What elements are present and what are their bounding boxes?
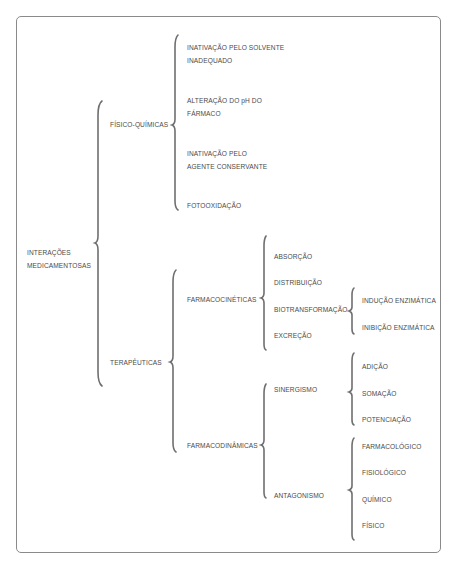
leaf-fotooxidacao: FOTOOXIDAÇÃO bbox=[187, 199, 241, 212]
root-label-line1: INTERAÇÕES bbox=[27, 246, 71, 259]
leaf-potenciacao: POTENCIAÇÃO bbox=[362, 413, 411, 426]
brace-antagonismo bbox=[349, 438, 354, 540]
leaf-distribuicao: DISTRIBUIÇÃO bbox=[274, 276, 322, 289]
brace-lines bbox=[0, 0, 456, 567]
node-farmacodinamicas: FARMACODINÂMICAS bbox=[187, 439, 258, 452]
leaf-excrecao: EXCREÇÃO bbox=[274, 329, 312, 342]
leaf-adicao: ADIÇÃO bbox=[362, 360, 388, 373]
leaf-somacao: SOMAÇÃO bbox=[362, 387, 396, 400]
node-sinergismo: SINERGISMO bbox=[274, 383, 317, 396]
leaf-inibicao-enzimatica: INIBIÇÃO ENZIMÁTICA bbox=[362, 321, 435, 334]
root-label-line2: MEDICAMENTOSAS bbox=[27, 259, 91, 272]
node-farmacocineticas: FARMACOCINÉTICAS bbox=[187, 293, 256, 306]
leaf-inativacao-conservante-line2: AGENTE CONSERVANTE bbox=[187, 160, 267, 173]
brace-fisico-quimicas bbox=[172, 35, 178, 210]
leaf-alteracao-ph-line1: ALTERAÇÃO DO pH DO bbox=[187, 94, 262, 107]
node-fisico-quimicas: FÍSICO-QUÍMICAS bbox=[110, 118, 168, 131]
node-antagonismo: ANTAGONISMO bbox=[274, 489, 324, 502]
leaf-farmacologico: FARMACOLÓGICO bbox=[362, 440, 422, 453]
leaf-inativacao-conservante-line1: INATIVAÇÃO PELO bbox=[187, 147, 247, 160]
brace-farmacodinamicas bbox=[261, 384, 266, 498]
node-biotransformacao: BIOTRANSFORMAÇÃO bbox=[274, 303, 347, 316]
leaf-absorcao: ABSORÇÃO bbox=[274, 250, 312, 263]
leaf-fisiologico: FISIOLÓGICO bbox=[362, 466, 406, 479]
leaf-fisico: FÍSICO bbox=[362, 519, 385, 532]
leaf-alteracao-ph-line2: FÁRMACO bbox=[187, 107, 221, 120]
brace-biotransformacao bbox=[349, 288, 354, 334]
brace-terapeuticas bbox=[170, 270, 176, 452]
leaf-inativacao-solvente-line1: INATIVAÇÃO PELO SOLVENTE bbox=[187, 41, 284, 54]
leaf-quimico: QUÍMICO bbox=[362, 493, 392, 506]
brace-root bbox=[95, 101, 102, 386]
leaf-inducao-enzimatica: INDUÇÃO ENZIMÁTICA bbox=[362, 294, 436, 307]
node-terapeuticas: TERAPÊUTICAS bbox=[110, 356, 162, 369]
brace-farmacocineticas bbox=[261, 236, 266, 350]
brace-sinergismo bbox=[349, 353, 354, 425]
leaf-inativacao-solvente-line2: INADEQUADO bbox=[187, 54, 232, 67]
